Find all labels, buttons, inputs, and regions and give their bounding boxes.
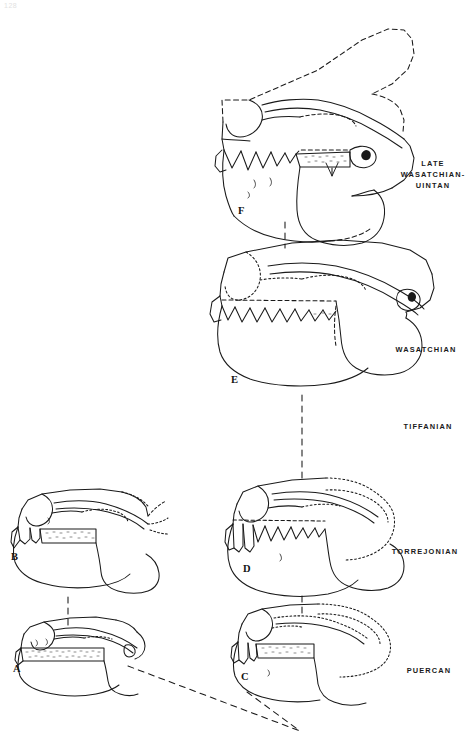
specimen-label-a: A	[13, 663, 21, 674]
connector-c-to-root	[247, 692, 300, 731]
connector-a-to-root	[128, 666, 300, 731]
stage-label-wasatchian: WASATCHIAN	[382, 344, 470, 355]
stage-label-tiffanian: TIFFANIAN	[386, 421, 470, 432]
molar-stipple-a	[26, 651, 100, 657]
specimen-label-d: D	[243, 563, 251, 574]
skull-drawing-b	[11, 489, 168, 593]
skull-phylogeny-figure: 128	[0, 0, 470, 741]
molar-stipple-b	[46, 532, 94, 538]
figure-drawing-canvas	[0, 0, 470, 741]
skull-drawing-e	[210, 240, 434, 386]
stage-label-torrejonian: TORREJONIAN	[380, 546, 470, 557]
skull-drawing-a	[15, 617, 145, 696]
molar-stipple-c	[262, 647, 310, 653]
skull-drawing-f	[215, 29, 414, 245]
specimen-label-b: B	[11, 551, 18, 562]
molar-stipple-f	[305, 156, 346, 162]
stage-label-puercan: PUERCAN	[388, 665, 470, 676]
skull-drawing-c	[231, 604, 391, 705]
stage-label-late-wasatchian-uintan: LATE WASATCHIAN- UINTAN	[396, 158, 470, 191]
specimen-label-e: E	[231, 374, 238, 385]
specimen-label-f: F	[238, 205, 244, 216]
specimen-label-c: C	[241, 671, 249, 682]
foramina-marks-f	[248, 178, 272, 198]
skull-drawing-d	[225, 478, 404, 596]
skull-drawings-group	[11, 29, 434, 731]
